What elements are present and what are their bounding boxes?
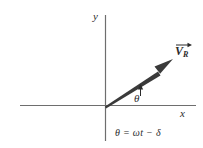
diagram-canvas — [0, 0, 203, 148]
angle-theta-label: θ — [134, 93, 139, 104]
y-axis-label: y — [93, 11, 98, 22]
vector-label-subscript: R — [183, 50, 188, 59]
phase-equation: θ = ωt − δ — [115, 128, 161, 138]
x-axis-label: x — [180, 108, 185, 119]
vector-label-base: V — [175, 44, 183, 58]
vector-shaft — [105, 72, 161, 109]
phasor-diagram: y x θ VR θ = ωt − δ — [0, 0, 203, 148]
vector-label-VR: VR — [175, 45, 188, 59]
